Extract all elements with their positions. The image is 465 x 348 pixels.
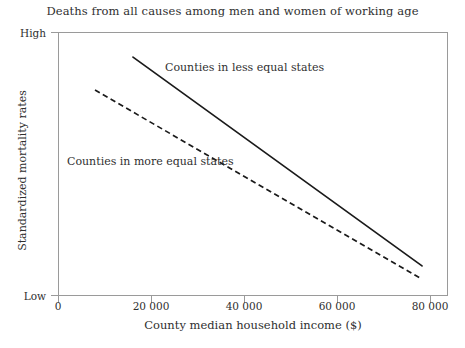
- chart-screenshot: Deaths from all causes among men and wom…: [0, 0, 465, 348]
- y-axis-title: Standardized mortality rates: [16, 61, 29, 281]
- x-axis-title: County median household income ($): [58, 318, 448, 332]
- x-tick-label-80000: 80 000: [412, 300, 449, 312]
- y-tick-label-low: Low: [24, 290, 46, 302]
- x-tick-label-0: 0: [55, 300, 62, 312]
- series-annotation-less-equal-states: Counties in less equal states: [165, 61, 324, 74]
- x-tick-label-20000: 20 000: [133, 300, 170, 312]
- y-tick-label-high: High: [20, 27, 46, 39]
- x-tick-label-40000: 40 000: [226, 300, 263, 312]
- plot-lines: [0, 0, 465, 348]
- x-tick-label-60000: 60 000: [319, 300, 356, 312]
- series-line-more-equal-states: [95, 90, 420, 278]
- series-annotation-more-equal-states: Counties in more equal states: [67, 155, 234, 168]
